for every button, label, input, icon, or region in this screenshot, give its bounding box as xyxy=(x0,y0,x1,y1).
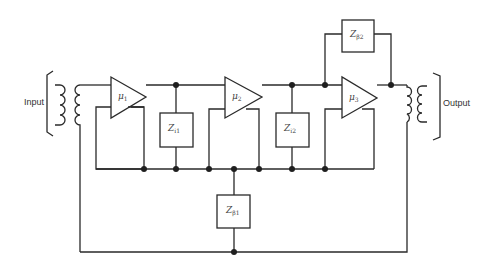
amplifier-3-label: μ3 xyxy=(349,92,359,103)
output-coil-primary xyxy=(407,85,412,122)
amplifier-2-label: μ2 xyxy=(232,91,242,102)
amp2-feedback-loop xyxy=(209,109,259,169)
input-bracket xyxy=(47,71,53,136)
output-label: Output xyxy=(443,98,470,108)
amp1-feedback-loop xyxy=(96,107,144,169)
output-bracket xyxy=(433,73,440,140)
amplifier-1-label: μ1 xyxy=(118,91,128,102)
zi2-label: Zi2 xyxy=(284,123,296,134)
zb1-label: Zβ1 xyxy=(226,205,240,216)
outer-return-loop xyxy=(80,122,407,252)
amplifier-1-triangle xyxy=(111,77,146,118)
output-coil-secondary xyxy=(418,86,428,122)
input-coil-primary xyxy=(75,85,80,252)
amp3-feedback-loop xyxy=(325,109,374,169)
feedback-amplifier-diagram: Input Output μ1 μ2 μ3 Zi1 Zi2 Zβ1 Zβ2 xyxy=(0,0,493,269)
amp1-return-line xyxy=(131,107,144,169)
amplifier-3-triangle xyxy=(342,77,377,118)
zb2-label: Zβ2 xyxy=(350,29,364,40)
circuit-schematic xyxy=(0,0,493,269)
input-label: Input xyxy=(24,97,44,107)
input-coil-secondary xyxy=(55,85,65,125)
amplifier-2-triangle xyxy=(225,77,262,118)
zi1-label: Zi1 xyxy=(168,123,180,134)
